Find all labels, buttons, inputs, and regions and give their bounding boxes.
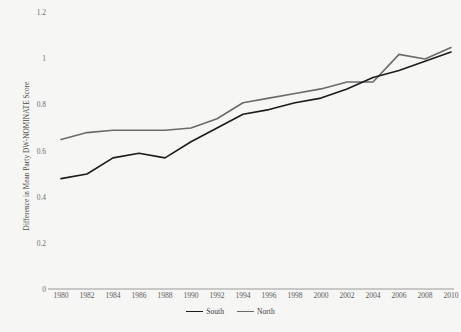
y-tick-label: 0.2 [37,240,46,248]
legend-item-north[interactable]: North [237,307,275,316]
plot-area [48,8,454,290]
line-chart-svg [48,8,454,290]
series-line-south [61,52,451,179]
x-axis-ticks: 1980198219841986198819901992199419961998… [0,291,461,305]
chart-legend: South North [0,307,461,316]
series-line-north [61,48,451,140]
legend-swatch-north-icon [237,311,254,313]
y-tick-label: 0.6 [37,148,46,156]
chart-figure: 1.2 1 0.8 0.6 0.4 0.2 0 Difference in Me… [0,0,461,332]
legend-item-south[interactable]: South [186,307,224,316]
y-tick-label: 1.2 [37,9,46,17]
legend-label-north: North [257,307,275,316]
legend-label-south: South [206,307,224,316]
y-tick-label: 1 [42,55,46,63]
y-axis-title: Difference in Mean Party DW-NOMINATE Sco… [23,51,31,261]
y-tick-label: 0.8 [37,101,46,109]
legend-swatch-south-icon [186,311,203,313]
x-tick-label: 2010 [431,291,461,301]
y-tick-label: 0.4 [37,194,46,202]
